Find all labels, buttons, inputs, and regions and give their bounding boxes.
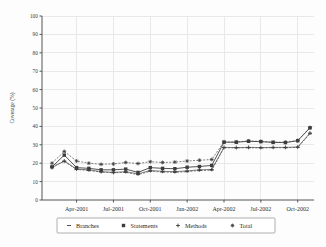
- series-marker: [234, 146, 238, 150]
- series-marker: [259, 146, 263, 150]
- x-tick-label: Jul-2001: [103, 206, 124, 212]
- y-tick-label: 40: [33, 123, 39, 129]
- x-tick-label: Apr-2001: [65, 206, 88, 212]
- series-marker: [271, 145, 275, 149]
- x-tick-label: Jul-2002: [250, 206, 271, 212]
- series-marker: [198, 165, 201, 168]
- y-tick-label: 90: [33, 31, 39, 37]
- series-marker: [185, 166, 188, 169]
- legend-label-total: Total: [240, 222, 253, 229]
- series-marker: [308, 126, 312, 130]
- series-marker: [161, 161, 165, 165]
- coverage-line-chart: 0102030405060708090100 Apr-2001Jul-2001O…: [0, 0, 326, 247]
- series-marker: [210, 168, 214, 172]
- series-marker: [112, 162, 116, 166]
- x-tick-label: Oct-2001: [139, 206, 162, 212]
- legend-label-methods: Methods: [185, 222, 207, 229]
- y-axis-ticks: 0102030405060708090100: [30, 13, 42, 203]
- series-marker: [99, 162, 103, 166]
- series-marker: [231, 224, 235, 228]
- x-tick-label: Apr-2002: [212, 206, 235, 212]
- series-marker: [122, 224, 125, 227]
- series-marker: [271, 140, 275, 144]
- series-marker: [185, 159, 189, 163]
- y-tick-label: 100: [30, 13, 38, 19]
- series-statements: [50, 126, 311, 174]
- series-marker: [173, 160, 177, 164]
- series-marker: [247, 145, 251, 149]
- series-marker: [222, 140, 226, 144]
- series-marker: [247, 139, 251, 143]
- y-axis-title: Coverage (%): [9, 92, 16, 123]
- series-marker: [87, 161, 91, 165]
- y-tick-label: 30: [33, 142, 39, 148]
- series-marker: [222, 145, 226, 149]
- y-tick-label: 80: [33, 50, 39, 56]
- series-marker: [62, 150, 66, 154]
- y-tick-label: 50: [33, 105, 39, 111]
- series-marker: [234, 140, 238, 144]
- x-tick-label: Jan-2002: [176, 206, 198, 212]
- y-tick-label: 70: [33, 68, 39, 74]
- y-tick-label: 10: [33, 179, 39, 185]
- chart-canvas: 0102030405060708090100 Apr-2001Jul-2001O…: [0, 0, 326, 247]
- series-marker: [198, 168, 202, 172]
- series-marker: [284, 140, 288, 144]
- y-tick-label: 20: [33, 160, 39, 166]
- series-total: [50, 126, 312, 167]
- series-marker: [50, 161, 54, 165]
- series-marker: [259, 139, 263, 143]
- legend-label-branches: Branches: [76, 222, 100, 229]
- x-tick-label: Oct-2002: [286, 206, 309, 212]
- series-marker: [284, 145, 288, 149]
- y-axis-title-text: Coverage (%): [9, 92, 16, 123]
- series-marker: [124, 161, 128, 165]
- series-marker: [148, 160, 152, 164]
- y-tick-label: 60: [33, 87, 39, 93]
- series-marker: [210, 158, 214, 162]
- legend-label-statements: Statements: [131, 222, 159, 229]
- series-marker: [63, 153, 66, 156]
- series-marker: [198, 158, 202, 162]
- series-marker: [136, 162, 140, 166]
- series-marker: [296, 138, 300, 142]
- x-axis-ticks: Apr-2001Jul-2001Oct-2001Jan-2002Apr-2002…: [65, 200, 309, 212]
- series-marker: [185, 169, 189, 173]
- y-tick-label: 0: [35, 197, 38, 203]
- series-layer: [50, 126, 312, 176]
- chart-legend: BranchesStatementsMethodsTotal: [57, 218, 275, 233]
- series-marker: [75, 159, 79, 163]
